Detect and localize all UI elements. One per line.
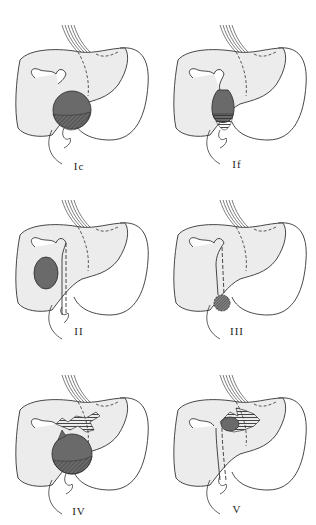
choledochocele-iii bbox=[214, 295, 230, 311]
panel-type-iii: III bbox=[158, 175, 316, 350]
liver-diagram-ii bbox=[0, 175, 158, 350]
panel-type-ic: Ic bbox=[0, 0, 158, 175]
liver-diagram-iv bbox=[0, 350, 158, 525]
panel-type-ii: II bbox=[0, 175, 158, 350]
panel-label: III bbox=[158, 325, 316, 337]
panel-label: If bbox=[158, 158, 316, 170]
panel-label: V bbox=[158, 503, 316, 515]
liver-diagram-iii bbox=[158, 175, 316, 350]
panel-type-iv: IV bbox=[0, 350, 158, 525]
panel-type-v: V bbox=[158, 350, 316, 525]
panel-label: Ic bbox=[0, 160, 158, 172]
liver-diagram-if bbox=[158, 0, 316, 175]
diverticulum-ii bbox=[34, 257, 58, 289]
liver-diagram-v bbox=[158, 350, 316, 525]
liver-diagram-ic bbox=[0, 0, 158, 175]
panel-label: IV bbox=[0, 505, 158, 517]
panel-label: II bbox=[0, 325, 158, 337]
panel-type-if: If bbox=[158, 0, 316, 175]
